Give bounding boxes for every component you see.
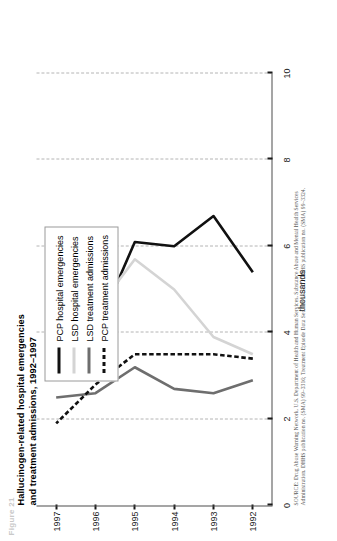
value-axis-tick: [267, 71, 272, 73]
legend-item: PCP treatment admissions: [96, 235, 111, 373]
chart-title-line-1: Hallucinogen-related hospital emergencie…: [14, 205, 26, 505]
value-axis-tick: [267, 244, 272, 246]
value-axis-tick-label: 2: [281, 416, 291, 421]
source-note: SOURCE: Drug Abuse Warning Network, U.S.…: [292, 35, 307, 505]
legend-line-swatch: [57, 347, 60, 373]
value-axis-tick-label: 0: [281, 502, 291, 507]
legend-item-label: PCP hospital emergencies: [54, 235, 64, 341]
legend-item: LSD hospital emergencies: [66, 235, 81, 373]
legend-item-label: LSD treatment admissions: [84, 235, 94, 341]
category-axis-tick-label: 1994: [169, 511, 179, 538]
legend-line-swatch: [72, 347, 75, 373]
category-axis-tick-label: 1997: [51, 511, 61, 538]
value-axis-tick-label: 8: [281, 157, 291, 162]
value-axis-line: [271, 73, 272, 505]
category-axis-line: [36, 505, 272, 506]
legend-line-swatch: [102, 347, 105, 373]
source-note-line-1: SOURCE: Drug Abuse Warning Network, U.S.…: [292, 35, 299, 505]
value-axis-tick: [267, 417, 272, 419]
rotated-figure-stage: Figure 21 Hallucinogen-related hospital …: [0, 0, 337, 541]
value-axis-tick-label: 4: [281, 330, 291, 335]
legend-item: LSD treatment admissions: [81, 235, 96, 373]
value-axis-tick: [267, 330, 272, 332]
category-axis-tick-label: 1992: [247, 511, 257, 538]
category-axis-tick-label: 1993: [208, 511, 218, 538]
chart-title: Hallucinogen-related hospital emergencie…: [14, 205, 38, 505]
legend: PCP hospital emergenciesLSD hospital eme…: [44, 226, 118, 381]
value-axis-tick-label: 10: [281, 68, 291, 78]
source-note-line-2: Administration. DHHS publication no. (SM…: [299, 35, 306, 505]
value-axis-tick: [267, 157, 272, 159]
legend-line-swatch: [87, 347, 90, 373]
legend-item-label: LSD hospital emergencies: [69, 236, 79, 341]
legend-item: PCP hospital emergencies: [51, 235, 66, 373]
value-axis-tick-label: 6: [281, 243, 291, 248]
category-axis-tick-label: 1995: [129, 511, 139, 538]
category-axis-tick-label: 1996: [90, 511, 100, 538]
legend-item-label: PCP treatment admissions: [99, 235, 109, 341]
